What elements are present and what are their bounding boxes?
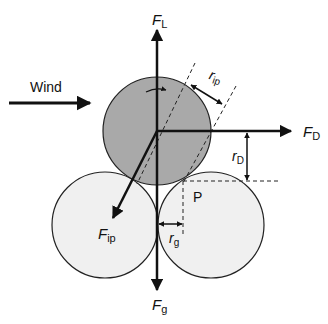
gravity-force-label: Fg [152, 296, 167, 315]
drag-force-label: FD [303, 123, 320, 142]
r-d-label: rD [232, 148, 244, 166]
pivot-point-label: P [193, 189, 202, 205]
wind-label: Wind [30, 79, 62, 95]
r-ip-label: rip [207, 66, 225, 87]
right-bed-particle [158, 172, 264, 278]
force-diagram: Wind FL FD Fip Fg rip rD rg P [0, 0, 328, 324]
lift-force-label: FL [152, 11, 167, 30]
